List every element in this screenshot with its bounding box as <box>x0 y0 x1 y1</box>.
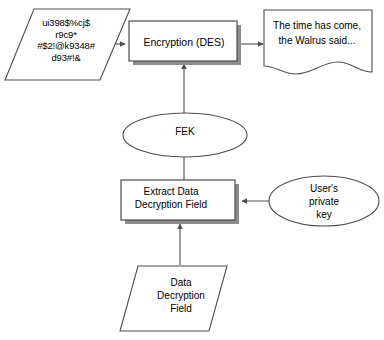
node-fek <box>123 113 247 157</box>
node-encryption <box>129 21 241 65</box>
node-extract-data-decryption-field <box>121 180 239 224</box>
node-ciphertext <box>5 9 130 80</box>
encryption-flow-diagram: ui398$%cj$ r9c9* #$2!@k9348# d93#!& Encr… <box>0 0 384 340</box>
node-plaintext-document <box>264 10 372 74</box>
node-data-decryption-field <box>120 266 227 331</box>
node-user-private-key <box>269 176 379 226</box>
